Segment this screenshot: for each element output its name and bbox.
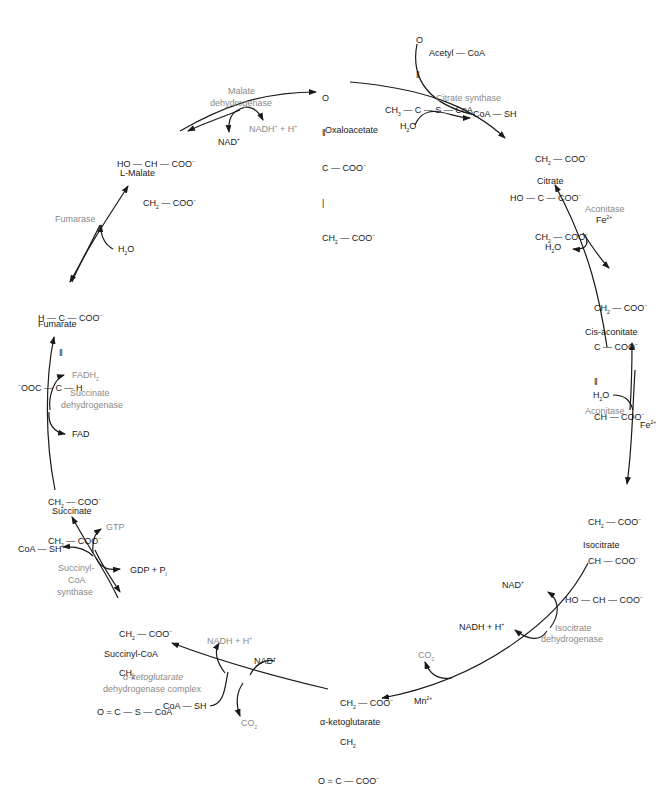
cofactor-aconitase-h2o-1: H2O xyxy=(545,242,561,253)
cofactor-sdh-fadh2: FADH2 xyxy=(72,370,99,381)
cofactor-icdh-nad: NAD+ xyxy=(502,580,524,591)
cofactor-icdh-co2: CO2 xyxy=(418,650,434,661)
arrow-sdh-fad xyxy=(49,412,65,434)
enzyme-scs-line1: Succinyl- xyxy=(58,563,95,574)
cofactor-akgdh-nad: NAD+ xyxy=(254,656,276,667)
cofactor-akgdh-coash: CoA — SH xyxy=(163,701,207,712)
arrow-malate-fumarate xyxy=(70,225,100,282)
cis-aconitate-label: Cis-aconitate xyxy=(585,327,638,338)
oxaloacetate-label: Oxaloacetate xyxy=(325,125,378,136)
arrow-fumarase-h2o xyxy=(101,225,113,249)
enzyme-akg-dh-line2: dehydrogenase complex xyxy=(103,684,201,695)
l-malate-label: L-Malate xyxy=(120,168,155,179)
enzyme-isocitrate-dh-line2: dehydrogenase xyxy=(541,634,603,645)
enzyme-sdh-line1: Succinate xyxy=(70,388,110,399)
enzyme-scs-line3: synthase xyxy=(57,587,93,598)
acetyl-coa-structure: O ‖ CH3 — C — S — CoA xyxy=(385,8,473,130)
oxaloacetate-structure: O ‖ C — COO− | CH2 — COO− xyxy=(322,66,375,258)
succinyl-coa-label: Succinyl-CoA xyxy=(104,649,158,660)
cofactor-sdh-fad: FAD xyxy=(72,429,90,440)
cofactor-cs-h2o: H2O xyxy=(400,121,416,132)
cofactor-icdh-nadh: NADH + H+ xyxy=(459,622,504,633)
succinyl-coa-structure: CH2 — COO− CH2 O = C — S — CoA xyxy=(97,602,172,732)
enzyme-sdh-line2: dehydrogenase xyxy=(61,400,123,411)
enzyme-citrate-synthase: Citrate synthase xyxy=(436,93,501,104)
cofactor-icdh-mn: Mn2+ xyxy=(414,696,432,707)
cofactor-mdh-nad: NAD+ xyxy=(218,137,240,148)
arrow-mdh-nadh xyxy=(240,107,263,120)
acetyl-coa-label: Acetyl — CoA xyxy=(429,48,485,59)
arrow-akg-succinylcoa xyxy=(172,643,328,689)
arrow-akgdh-co2 xyxy=(237,683,243,716)
cofactor-aconitase-fe-1: Fe2+ xyxy=(596,215,612,226)
cofactor-scs-gtp: GTP xyxy=(106,522,125,533)
arrow-icdh-co2 xyxy=(425,662,452,678)
arrow-akgdh-coash xyxy=(210,672,228,706)
enzyme-akg-dh-line1: α-ketoglutarate xyxy=(123,672,183,683)
cofactor-mdh-nadh: NADH+ + H+ xyxy=(249,124,297,135)
alpha-ketoglutarate-label: α-ketoglutarate xyxy=(320,717,380,728)
cofactor-aconitase-fe-2: Fe2+ xyxy=(640,420,656,431)
arrow-mdh-nad xyxy=(229,109,240,132)
enzyme-aconitase-1: Aconitase xyxy=(585,204,625,215)
isocitrate-structure: CH2 — COO− CH — COO− HO — CH — COO− xyxy=(565,490,643,620)
alpha-ketoglutarate-structure: CH2 — COO− CH2 O = C — COO− xyxy=(318,671,393,788)
cofactor-scs-coash: CoA — SH xyxy=(18,544,62,555)
enzyme-scs-line2: CoA xyxy=(68,575,86,586)
cofactor-cs-coash: CoA — SH xyxy=(473,109,517,120)
cofactor-akgdh-co2: CO2 xyxy=(241,718,257,729)
enzyme-isocitrate-dh-line1: Isocitrate xyxy=(555,623,592,634)
enzyme-mdh-line1: Malate xyxy=(228,86,255,97)
cofactor-scs-gdp: GDP + Pi xyxy=(130,565,167,576)
cofactor-akgdh-nadh: NADH + H+ xyxy=(207,636,252,647)
enzyme-aconitase-2: Aconitase xyxy=(585,406,625,417)
isocitrate-label: Isocitrate xyxy=(583,540,620,551)
citrate-label: Citrate xyxy=(537,176,564,187)
succinate-label: Succinate xyxy=(52,506,92,517)
cofactor-fumarase-h2o: H2O xyxy=(118,244,134,255)
enzyme-fumarase: Fumarase xyxy=(55,214,96,225)
fumarate-label: Fumarate xyxy=(38,319,77,330)
enzyme-mdh-line2: dehydrogenase xyxy=(210,98,272,109)
citrate-structure: CH2 — COO− HO — C — COO− CH2 — COO− xyxy=(510,127,588,257)
cofactor-aconitase-h2o-2: H2O xyxy=(593,390,609,401)
arrow-akgdh-nadh xyxy=(217,643,225,673)
